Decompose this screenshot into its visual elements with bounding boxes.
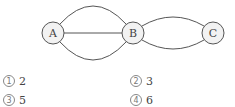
- node-a-label: A: [48, 27, 58, 40]
- option-1[interactable]: 12: [3, 74, 26, 88]
- node-c: C: [202, 22, 224, 44]
- node-c-label: C: [209, 27, 217, 40]
- option-4[interactable]: 46: [130, 93, 153, 107]
- edge-b-c-bottom-arc: [142, 40, 204, 49]
- option-3-value: 5: [19, 94, 26, 107]
- option-2-marker: 2: [130, 75, 142, 87]
- option-1-value: 2: [19, 75, 26, 88]
- option-4-value: 6: [146, 94, 153, 107]
- option-4-marker: 4: [130, 94, 142, 106]
- option-1-marker: 1: [3, 75, 15, 87]
- option-3[interactable]: 35: [3, 93, 26, 107]
- node-a: A: [42, 22, 64, 44]
- option-2-value: 3: [146, 75, 153, 88]
- node-b-label: B: [129, 27, 137, 40]
- graph-diagram: A B C: [0, 0, 235, 66]
- answer-options: 12 23 35 46: [0, 66, 235, 107]
- option-3-marker: 3: [3, 94, 15, 106]
- edge-a-b-bottom-arc: [60, 42, 126, 60]
- node-b: B: [122, 22, 144, 44]
- edge-b-c-top-arc: [142, 17, 204, 26]
- edge-a-b-top-arc: [60, 6, 126, 24]
- graph-svg: A B C: [0, 0, 235, 66]
- option-2[interactable]: 23: [130, 74, 153, 88]
